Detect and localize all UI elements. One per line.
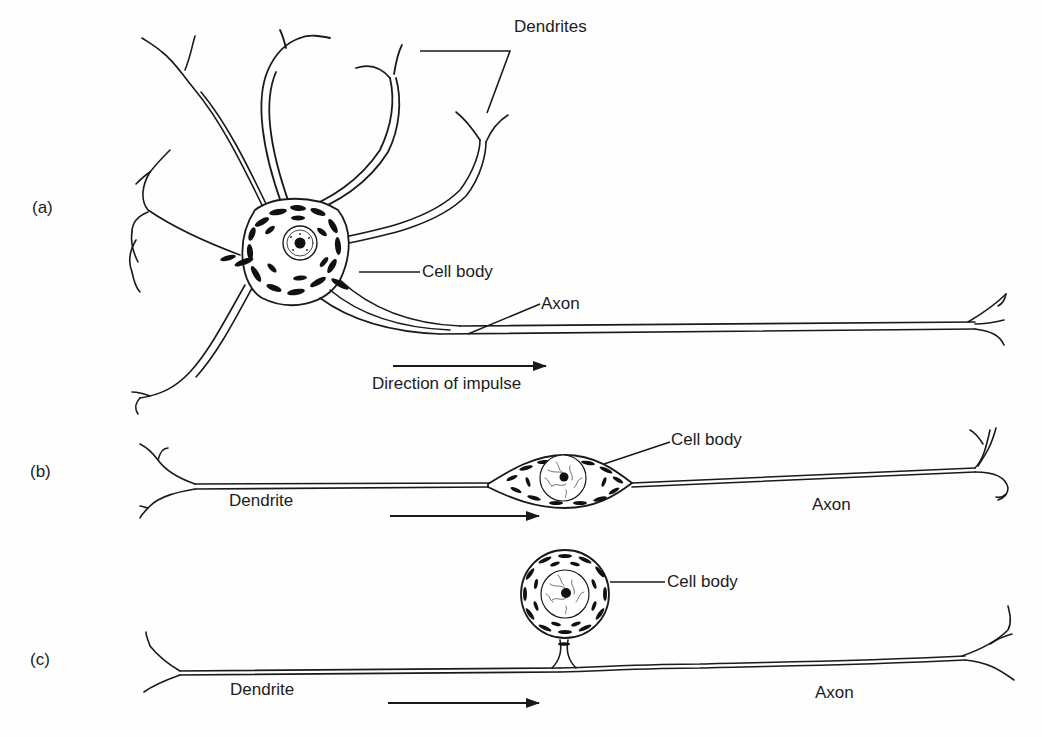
soma-unipolar [521, 550, 609, 668]
neuron-illustration [0, 0, 1042, 737]
label-dendrites-a: Dendrites [514, 17, 587, 37]
label-cell-body-c: Cell body [667, 572, 738, 592]
label-axon-c: Axon [815, 683, 854, 703]
panel-marker-a: (a) [32, 198, 53, 218]
label-cell-body-a: Cell body [422, 262, 493, 282]
dendrite-unipolar [144, 632, 560, 692]
dendrite-lower-left [132, 285, 252, 414]
label-dendrite-c: Dendrite [230, 680, 294, 700]
soma-bipolar [488, 455, 632, 508]
label-direction-of-impulse: Direction of impulse [372, 374, 521, 394]
dendrite-right [330, 112, 508, 246]
leader-line-b-cell-body [604, 442, 670, 464]
neuron-diagram: (a) (b) (c) Dendrites Cell body Axon Dir… [0, 0, 1042, 737]
dendrite-top-center [261, 30, 402, 214]
label-axon-b: Axon [812, 495, 851, 515]
dendrite-bipolar [140, 444, 490, 518]
dendrite-upper-left [142, 36, 268, 208]
multipolar-neuron [130, 30, 1006, 414]
axon-unipolar [560, 606, 1014, 680]
label-dendrite-b: Dendrite [229, 491, 293, 511]
leader-lines-a [359, 51, 540, 334]
label-cell-body-b: Cell body [671, 430, 742, 450]
panel-marker-b: (b) [30, 462, 51, 482]
panel-marker-c: (c) [30, 650, 50, 670]
soma-multipolar [220, 199, 351, 305]
label-axon-a: Axon [541, 294, 580, 314]
axon-multipolar [320, 280, 1006, 345]
dendrite-left [130, 150, 240, 292]
unipolar-neuron [144, 550, 1014, 692]
